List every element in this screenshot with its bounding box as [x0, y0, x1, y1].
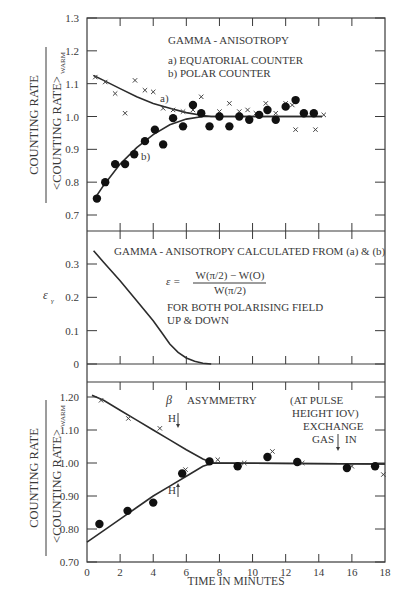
bottom-note-line3: EXCHANGE: [303, 420, 364, 432]
data-point-cross: [264, 101, 268, 105]
data-point-dot: [93, 194, 101, 202]
h-up-arrow-icon: [176, 483, 180, 497]
data-point-cross: [199, 95, 203, 99]
data-point-dot: [255, 111, 263, 119]
data-point-dot: [263, 106, 271, 114]
h-down-label: H: [168, 412, 176, 424]
bottom-ylabel-subscript: WARM: [59, 404, 67, 427]
bottom-beta-symbol: β: [165, 393, 172, 407]
data-point-cross: [216, 458, 220, 462]
fit-curve: [87, 463, 385, 542]
data-point-dot: [343, 464, 351, 472]
data-point-cross: [126, 416, 130, 420]
data-point-dot: [101, 178, 109, 186]
y-tick-label: 1.1: [65, 78, 79, 90]
bottom-note-gas: GAS: [312, 433, 334, 445]
data-point-dot: [95, 520, 103, 528]
y-tick-label: 0.2: [65, 291, 79, 303]
data-point-dot: [130, 150, 138, 158]
data-point-cross: [227, 101, 231, 105]
data-point-cross: [313, 127, 317, 131]
data-point-cross: [133, 78, 137, 82]
y-tick-label: 1.2: [65, 45, 79, 57]
data-point-dot: [111, 160, 119, 168]
top-ylabel-denominator: <COUNTING RATE>: [50, 76, 64, 190]
y-tick-label: 1.0: [65, 111, 79, 123]
bottom-note-line2: HEIGHT IOV): [292, 407, 359, 420]
top-ylabel: COUNTING RATE <COUNTING RATE> WARM: [27, 47, 67, 203]
x-tick-label: 14: [313, 566, 325, 578]
data-point-dot: [159, 140, 167, 148]
top-ylabel-numerator: COUNTING RATE: [27, 75, 41, 175]
data-point-dot: [293, 458, 301, 466]
bottom-note-in: IN: [345, 433, 357, 445]
x-tick-label: 18: [380, 566, 392, 578]
y-tick-label: 0.8: [65, 176, 79, 188]
data-point-dot: [141, 137, 149, 145]
data-point-cross: [293, 127, 297, 131]
y-tick-label: 0.1: [65, 325, 79, 337]
bottom-ylabel-denominator: <COUNTING RATE>: [50, 429, 64, 543]
data-point-dot: [291, 96, 299, 104]
x-axis-label: TIME IN MINUTES: [187, 575, 284, 587]
data-point-dot: [225, 122, 233, 130]
y-tick-label: 0.3: [65, 258, 79, 270]
data-point-cross: [322, 113, 326, 117]
x-tick-label: 0: [84, 566, 90, 578]
curve-label-b: b): [141, 150, 151, 163]
y-tick-label: 1.3: [65, 12, 79, 24]
data-point-cross: [113, 91, 117, 95]
data-point-dot: [215, 112, 223, 120]
h-up-label: H: [168, 484, 176, 496]
exchange-gas-arrow-icon: [336, 434, 340, 451]
mid-ylabel: ε: [43, 288, 48, 302]
figure: 1.31.21.11.00.90.80.70.30.20.101.201.101…: [0, 0, 404, 605]
data-point-dot: [235, 112, 243, 120]
y-tick-label: 0.9: [65, 143, 79, 155]
mid-formula-numerator: W(π/2) − W(O): [196, 269, 265, 282]
data-point-dot: [178, 469, 186, 477]
x-tick-label: 16: [346, 566, 358, 578]
fit-curve: [94, 76, 323, 117]
data-point-dot: [123, 507, 131, 515]
data-point-cross: [270, 449, 274, 453]
bottom-note-line1: (AT PULSE: [290, 394, 344, 407]
data-point-dot: [310, 109, 318, 117]
x-tick-label: 2: [117, 566, 123, 578]
data-point-dot: [371, 462, 379, 470]
chart-canvas: 1.31.21.11.00.90.80.70.30.20.101.201.101…: [0, 0, 404, 605]
data-point-dot: [233, 462, 241, 470]
data-point-cross: [123, 111, 127, 115]
data-point-cross: [143, 88, 147, 92]
mid-formula-lhs: ε =: [166, 275, 181, 287]
top-ylabel-subscript: WARM: [59, 51, 67, 74]
mid-note-line2: UP & DOWN: [167, 314, 229, 326]
data-point-dot: [151, 125, 159, 133]
data-point-dot: [197, 109, 205, 117]
data-point-dot: [121, 160, 129, 168]
top-legend-b: b) POLAR COUNTER: [168, 67, 271, 80]
y-tick-label: 0.7: [65, 209, 79, 221]
y-tick-label: 1.20: [60, 391, 80, 403]
mid-formula-denominator: W(π/2): [214, 284, 246, 297]
mid-title: GAMMA - ANISOTROPY CALCULATED FROM (a) &…: [114, 245, 386, 258]
data-point-dot: [245, 116, 253, 124]
data-point-dot: [272, 116, 280, 124]
data-point-dot: [149, 498, 157, 506]
mid-note-line1: FOR BOTH POLARISING FIELD: [167, 301, 323, 313]
data-point-cross: [245, 108, 249, 112]
h-down-arrow-icon: [176, 413, 180, 428]
top-title: GAMMA - ANISOTROPY: [168, 34, 289, 46]
data-point-cross: [274, 111, 278, 115]
data-point-dot: [189, 101, 197, 109]
data-point-dot: [205, 122, 213, 130]
bottom-ylabel: COUNTING RATE <COUNTING RATE> WARM: [27, 400, 67, 556]
data-point-dot: [205, 457, 213, 465]
curve-label-a: a): [160, 92, 169, 105]
y-tick-label: 0.70: [60, 556, 80, 568]
mid-ylabel-subscript: γ: [51, 297, 54, 305]
data-point-dot: [281, 102, 289, 110]
data-point-dot: [300, 109, 308, 117]
x-tick-label: 4: [150, 566, 156, 578]
data-point-dot: [169, 114, 177, 122]
